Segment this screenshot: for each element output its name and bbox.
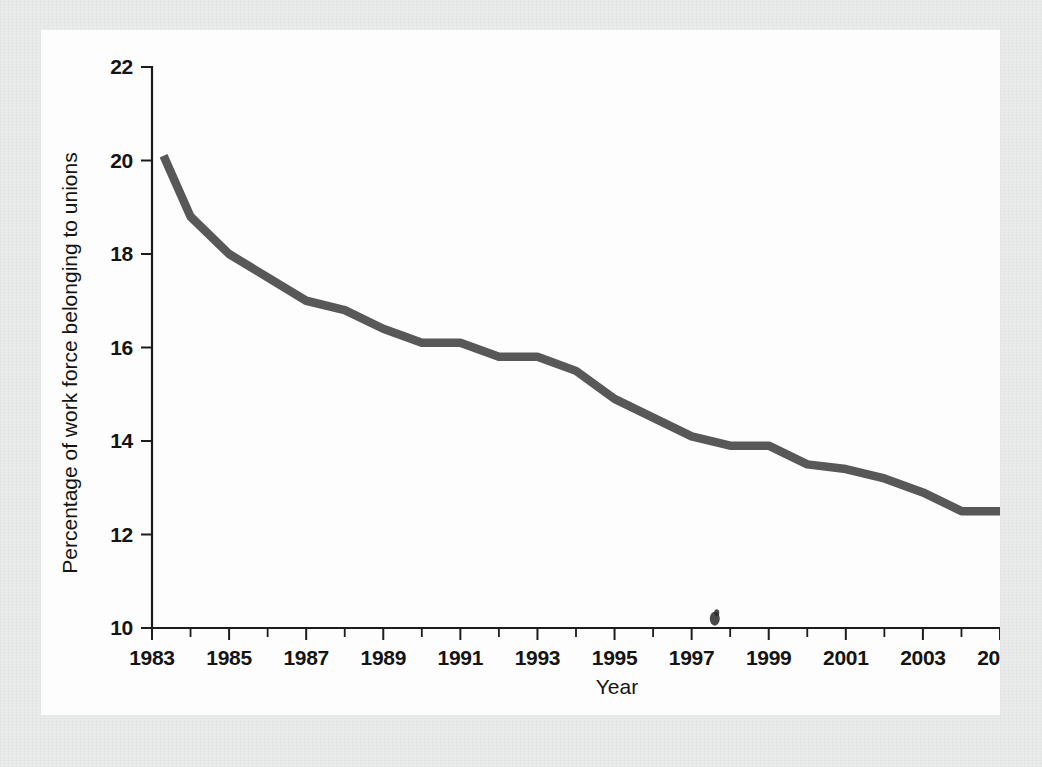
chart-axes [152,67,1000,628]
y-tick-label: 14 [110,429,133,452]
y-tick-label: 22 [110,55,133,78]
x-tick-label: 2001 [823,646,869,669]
x-tick-label: 1993 [515,646,561,669]
chart-annotations [710,609,720,626]
y-tick-label: 18 [110,242,133,265]
scanned-page-background: 10121416182022 1983198519871989199119931… [0,0,1042,767]
y-tick-label: 12 [110,523,133,546]
y-tick-label: 20 [110,149,133,172]
x-axis-tick-labels: 1983198519871989199119931995199719992001… [129,646,1000,669]
y-axis-tick-labels: 10121416182022 [110,55,133,639]
x-tick-label: 2005 [977,646,1000,669]
data-series-group [164,156,1000,511]
x-tick-label: 1987 [283,646,329,669]
y-axis-ticks [141,67,152,628]
x-tick-label: 1983 [129,646,175,669]
y-tick-label: 16 [110,336,133,359]
line-chart-figure: 10121416182022 1983198519871989199119931… [41,30,1000,715]
page-sheet: 10121416182022 1983198519871989199119931… [41,30,1000,715]
x-tick-label: 1995 [592,646,638,669]
ink-smudge-marker [710,609,720,626]
y-axis-title: Percentage of work force belonging to un… [58,152,81,573]
union-membership-line [164,156,1000,511]
x-tick-label: 1999 [746,646,792,669]
ink-smudge-tail [714,609,719,616]
x-axis-ticks [152,628,1000,640]
x-tick-label: 1991 [438,646,484,669]
y-tick-label: 10 [110,616,133,639]
x-tick-label: 1997 [669,646,715,669]
x-tick-label: 1985 [206,646,252,669]
x-axis-title: Year [596,675,638,698]
x-tick-label: 1989 [361,646,407,669]
x-tick-label: 2003 [900,646,946,669]
chart-svg: 10121416182022 1983198519871989199119931… [41,30,1000,715]
